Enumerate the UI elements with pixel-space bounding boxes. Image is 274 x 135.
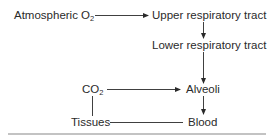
subscript-2: 2: [99, 88, 103, 97]
node-alveoli: Alveoli: [186, 83, 220, 96]
node-upper-respiratory-tract-text: Upper respiratory tract: [152, 9, 266, 21]
node-co2: CO2: [82, 83, 103, 99]
node-lower-respiratory-tract-text: Lower respiratory tract: [152, 39, 266, 51]
node-upper-respiratory-tract: Upper respiratory tract: [152, 9, 266, 22]
node-co2-text: CO: [82, 83, 99, 95]
node-blood-text: Blood: [188, 116, 217, 128]
node-blood: Blood: [188, 116, 217, 129]
subscript-2: 2: [90, 14, 94, 23]
node-atmospheric-o2-text: Atmospheric O: [14, 9, 90, 21]
node-tissues-text: Tissues: [71, 116, 110, 128]
node-alveoli-text: Alveoli: [186, 83, 220, 95]
node-tissues: Tissues: [71, 116, 110, 129]
node-lower-respiratory-tract: Lower respiratory tract: [152, 39, 266, 52]
node-atmospheric-o2: Atmospheric O2: [14, 9, 94, 25]
